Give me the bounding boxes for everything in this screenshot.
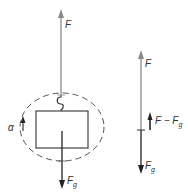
arrowhead-up-icon — [148, 112, 153, 120]
hook-icon — [57, 95, 63, 111]
net-force-arrow — [148, 112, 153, 130]
arrowhead-up-icon — [138, 50, 144, 59]
applied-force-arrow-right — [138, 50, 144, 130]
acceleration-label: α — [8, 122, 14, 133]
gravity-force-arrow-left — [58, 131, 66, 189]
right-figure: F F − Fg Fg — [137, 50, 182, 174]
arrowhead-up-icon — [58, 9, 64, 18]
net-force-label: F − Fg — [155, 115, 182, 129]
force-diagram: F Fg α F — [0, 0, 188, 194]
acceleration-arrow — [21, 116, 26, 131]
arrowhead-down-icon — [138, 165, 144, 174]
gravity-force-label-right: Fg — [145, 160, 155, 174]
gravity-force-arrow-right — [138, 130, 144, 174]
gravity-force-label-left: Fg — [67, 175, 77, 189]
arrowhead-down-icon — [59, 180, 65, 189]
applied-force-label-left: F — [65, 19, 72, 30]
applied-force-arrow-left — [58, 9, 64, 95]
left-figure: F Fg α — [8, 9, 104, 189]
arrowhead-up-icon — [21, 116, 26, 123]
applied-force-label-right: F — [145, 58, 152, 69]
